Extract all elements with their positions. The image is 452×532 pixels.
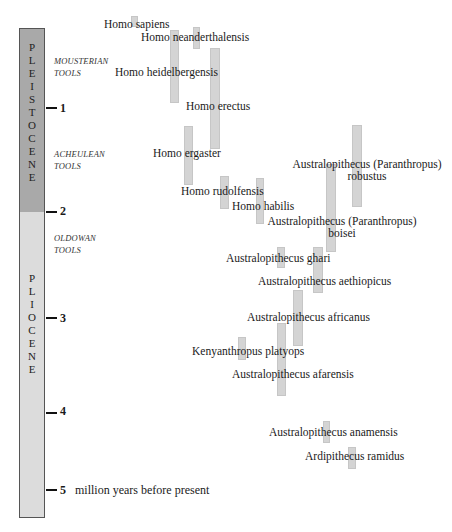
range-bar-afarensis: [277, 323, 286, 396]
epoch-letter: E: [20, 337, 44, 350]
tick-label-1: 1: [60, 102, 66, 114]
species-label-robustus: Australopithecus (Paranthropus) robustus: [282, 158, 452, 182]
epoch-letter: C: [20, 324, 44, 337]
epoch-letter: I: [20, 298, 44, 311]
epoch-letter: E: [20, 67, 44, 80]
oldowan-tools-label: OLDOWAN TOOLS: [54, 232, 96, 256]
tick-3: [46, 317, 57, 319]
species-label-homo-sapiens: Homo sapiens: [104, 18, 169, 30]
species-label-line: robustus: [282, 170, 452, 182]
species-label-ramidus: Ardipithecus ramidus: [305, 450, 404, 462]
species-label-anamensis: Australopithecus anamensis: [269, 426, 398, 438]
tick-5: [46, 489, 57, 491]
epoch-letter: P: [20, 272, 44, 285]
species-label-afarensis: Australopithecus afarensis: [232, 368, 354, 380]
tick-label-3: 3: [60, 312, 66, 324]
epoch-letter: E: [20, 145, 44, 158]
epoch-letter: L: [20, 54, 44, 67]
species-label-line: Australopithecus (Paranthropus): [257, 215, 427, 227]
range-bar-homo-erectus: [210, 48, 220, 149]
tick-4: [46, 412, 57, 414]
species-label-africanus: Australopithecus africanus: [247, 311, 370, 323]
epoch-letter: S: [20, 93, 44, 106]
species-label-line: Australopithecus (Paranthropus): [282, 158, 452, 170]
species-label-homo-ergaster: Homo ergaster: [153, 147, 221, 159]
tools-line: TOOLS: [54, 67, 108, 79]
pleistocene-label: P L E I S T O C E N E: [20, 41, 44, 184]
epoch-letter: E: [20, 171, 44, 184]
species-label-ghari: Australopithecus ghari: [226, 252, 330, 264]
species-label-aethiopicus: Australopithecus aethiopicus: [258, 275, 391, 287]
tick-label-4: 4: [60, 405, 66, 417]
tick-2: [46, 211, 57, 213]
pliocene-band: P L I O C E N E: [19, 212, 45, 518]
epoch-letter: I: [20, 80, 44, 93]
epoch-letter: N: [20, 158, 44, 171]
epoch-letter: C: [20, 132, 44, 145]
species-label-homo-erectus: Homo erectus: [186, 100, 250, 112]
axis-unit-label: million years before present: [75, 484, 209, 496]
tools-line: TOOLS: [54, 244, 96, 256]
tools-line: ACHEULEAN: [54, 148, 105, 160]
species-label-homo-neanderthalensis: Homo neanderthalensis: [141, 31, 249, 43]
mousterian-tools-label: MOUSTERIAN TOOLS: [54, 55, 108, 79]
epoch-letter: O: [20, 311, 44, 324]
pliocene-label: P L I O C E N E: [20, 272, 44, 376]
tools-line: TOOLS: [54, 160, 105, 172]
tick-1: [46, 107, 57, 109]
species-label-homo-heidelbergensis: Homo heidelbergensis: [115, 66, 218, 78]
epoch-letter: P: [20, 41, 44, 54]
species-label-homo-habilis: Homo habilis: [232, 200, 294, 212]
epoch-letter: E: [20, 363, 44, 376]
pleistocene-band: P L E I S T O C E N E: [19, 28, 45, 213]
species-label-homo-rudolfensis: Homo rudolfensis: [181, 185, 264, 197]
epoch-letter: L: [20, 285, 44, 298]
epoch-letter: N: [20, 350, 44, 363]
species-label-boisei: Australopithecus (Paranthropus) boisei: [257, 215, 427, 239]
tools-line: MOUSTERIAN: [54, 55, 108, 67]
tools-line: OLDOWAN: [54, 232, 96, 244]
epoch-letter: O: [20, 119, 44, 132]
species-label-platyops: Kenyanthropus platyops: [192, 345, 304, 357]
epoch-letter: T: [20, 106, 44, 119]
tick-label-2: 2: [60, 205, 66, 217]
tick-label-5: 5: [60, 484, 66, 496]
acheulean-tools-label: ACHEULEAN TOOLS: [54, 148, 105, 172]
species-label-line: boisei: [257, 227, 427, 239]
